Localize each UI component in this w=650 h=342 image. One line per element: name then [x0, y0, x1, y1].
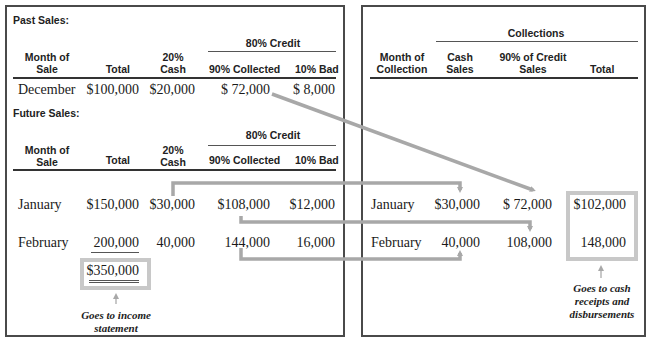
future-header-bad: 10% Bad: [295, 154, 339, 166]
sum-underline: [91, 252, 139, 253]
future-credit-group-rule: [208, 145, 336, 146]
cell-total: 200,000: [84, 235, 139, 251]
cell-bad: $12,000: [285, 197, 335, 213]
double-underline-2: [89, 282, 139, 283]
past-sales-title: Past Sales:: [13, 14, 69, 26]
future-header-month: Month of Sale: [14, 144, 80, 168]
past-header-bad: 10% Bad: [295, 63, 339, 75]
past-header-month: Month of Sale: [14, 51, 80, 75]
cell-credit: $ 72,000: [492, 197, 552, 213]
cell-cash: $30,000: [145, 197, 195, 213]
income-statement-note: Goes to income statement: [70, 309, 162, 335]
collections-header-credit: 90% of Credit Sales: [490, 51, 576, 75]
cell-cash: $20,000: [145, 82, 195, 98]
cell-month: January: [371, 197, 415, 213]
future-credit-group-header: 80% Credit: [210, 129, 336, 141]
cell-bad: $ 8,000: [285, 82, 335, 98]
cell-total: $100,000: [84, 82, 139, 98]
collections-group-rule: [436, 41, 638, 42]
cell-collected: 144,000: [210, 235, 270, 251]
cell-month: December: [18, 82, 76, 98]
cell-cash: 40,000: [145, 235, 195, 251]
past-header-cash: 20% Cash: [150, 51, 196, 75]
future-header-cash: 20% Cash: [150, 144, 196, 168]
cell-cash: $30,000: [430, 197, 480, 213]
past-credit-group-header: 80% Credit: [210, 37, 336, 49]
cell-month: February: [18, 235, 69, 251]
cell-total: 148,000: [566, 235, 626, 251]
cell-total: $150,000: [84, 197, 139, 213]
cell-bad: 16,000: [285, 235, 335, 251]
past-header-rule: [13, 77, 336, 79]
collections-header-month: Month of Collection: [366, 51, 438, 75]
cell-cash: 40,000: [430, 235, 480, 251]
cell-month: February: [371, 235, 422, 251]
cash-receipts-note: Goes to cash receipts and disbursements: [555, 282, 649, 321]
cell-collected: $108,000: [210, 197, 270, 213]
past-credit-group-rule: [208, 51, 336, 52]
cell-total: $102,000: [566, 197, 626, 213]
future-header-total: Total: [90, 154, 130, 166]
future-sales-title: Future Sales:: [13, 107, 80, 119]
sales-grand-total: $350,000: [84, 263, 139, 279]
cell-credit: 108,000: [492, 235, 552, 251]
cell-collected: $ 72,000: [210, 82, 270, 98]
collections-header-total: Total: [590, 63, 614, 75]
cell-month: January: [18, 197, 62, 213]
past-header-total: Total: [90, 63, 130, 75]
collections-header-cash: Cash Sales: [440, 51, 480, 75]
future-header-collected: 90% Collected: [209, 154, 280, 166]
double-underline-1: [89, 280, 139, 281]
collections-group-header: Collections: [435, 27, 637, 39]
future-header-rule: [13, 169, 336, 171]
past-header-collected: 90% Collected: [209, 63, 280, 75]
collections-header-rule: [370, 77, 638, 79]
